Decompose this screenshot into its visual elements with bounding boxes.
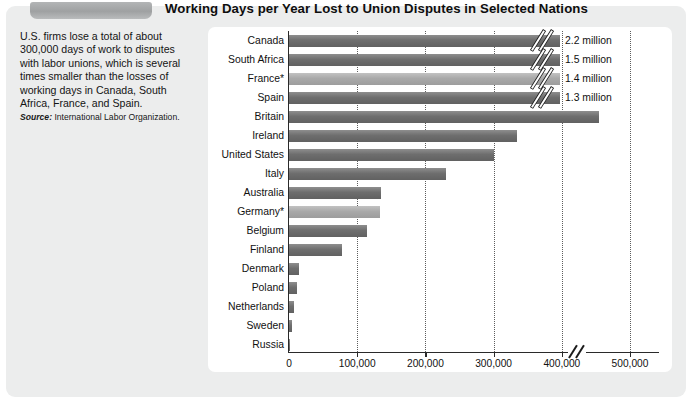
category-label: Britain — [208, 107, 284, 126]
chart-panel: Canada2.2 millionSouth Africa1.5 million… — [208, 27, 672, 372]
bar-row: South Africa1.5 million — [208, 50, 672, 69]
bar-row: Netherlands — [208, 297, 672, 316]
x-axis-line — [289, 352, 659, 353]
x-tick — [562, 352, 563, 357]
value-label: 1.5 million — [565, 50, 612, 69]
bar — [289, 339, 290, 351]
bar — [289, 263, 299, 275]
value-label: 1.4 million — [565, 69, 612, 88]
x-tick-label: 200,000 — [407, 358, 444, 369]
category-label: Italy — [208, 164, 284, 183]
category-label: Sweden — [208, 316, 284, 335]
bar-row: Sweden — [208, 316, 672, 335]
source-label: Source: — [20, 112, 52, 122]
bar-row: United States — [208, 145, 672, 164]
category-label: Belgium — [208, 221, 284, 240]
page-title: Working Days per Year Lost to Union Disp… — [165, 1, 685, 16]
bar — [289, 149, 494, 161]
bar-row: Australia — [208, 183, 672, 202]
bar — [289, 187, 381, 199]
x-tick-label: 100,000 — [339, 358, 376, 369]
category-label: Poland — [208, 278, 284, 297]
bar-row: Finland — [208, 240, 672, 259]
x-tick-label: 500,000 — [612, 358, 649, 369]
bar — [289, 320, 292, 332]
bar-row: Germany* — [208, 202, 672, 221]
category-label: United States — [208, 145, 284, 164]
value-label: 1.3 million — [565, 88, 612, 107]
value-label: 2.2 million — [565, 31, 612, 50]
bar-row: Ireland — [208, 126, 672, 145]
category-label: South Africa — [208, 50, 284, 69]
category-label: Spain — [208, 88, 284, 107]
bar — [289, 168, 446, 180]
bar — [289, 130, 517, 142]
category-label: Ireland — [208, 126, 284, 145]
x-tick — [494, 352, 495, 357]
source-text: International Labor Organization. — [54, 112, 179, 122]
bar-row: Britain — [208, 107, 672, 126]
bar-row: Canada2.2 million — [208, 31, 672, 50]
bar-row: Poland — [208, 278, 672, 297]
bar — [289, 282, 297, 294]
corner-tab — [30, 2, 152, 19]
bar-row: Denmark — [208, 259, 672, 278]
bar — [289, 301, 294, 313]
bar — [289, 206, 380, 218]
x-tick-label: 400,000 — [543, 358, 580, 369]
bar — [289, 54, 560, 66]
x-tick-label: 300,000 — [475, 358, 512, 369]
category-label: Canada — [208, 31, 284, 50]
category-label: France* — [208, 69, 284, 88]
category-label: Germany* — [208, 202, 284, 221]
x-tick — [630, 352, 631, 357]
x-tick-label: 0 — [286, 358, 292, 369]
x-tick — [425, 352, 426, 357]
plot-area: Canada2.2 millionSouth Africa1.5 million… — [208, 27, 672, 372]
bar — [289, 92, 560, 104]
bar-row: Italy — [208, 164, 672, 183]
category-label: Netherlands — [208, 297, 284, 316]
bar-row: Spain1.3 million — [208, 88, 672, 107]
bar — [289, 35, 560, 47]
lede-text: U.S. firms lose a total of about 300,000… — [20, 30, 196, 110]
bar-row: Belgium — [208, 221, 672, 240]
source-note: Source: International Labor Organization… — [20, 112, 200, 122]
bar — [289, 73, 560, 85]
bar — [289, 225, 367, 237]
x-tick — [357, 352, 358, 357]
category-label: Finland — [208, 240, 284, 259]
chart-figure: Working Days per Year Lost to Union Disp… — [0, 0, 692, 403]
bar — [289, 244, 342, 256]
category-label: Denmark — [208, 259, 284, 278]
category-label: Russia — [208, 335, 284, 354]
category-label: Australia — [208, 183, 284, 202]
bar — [289, 111, 599, 123]
bar-row: France*1.4 million — [208, 69, 672, 88]
